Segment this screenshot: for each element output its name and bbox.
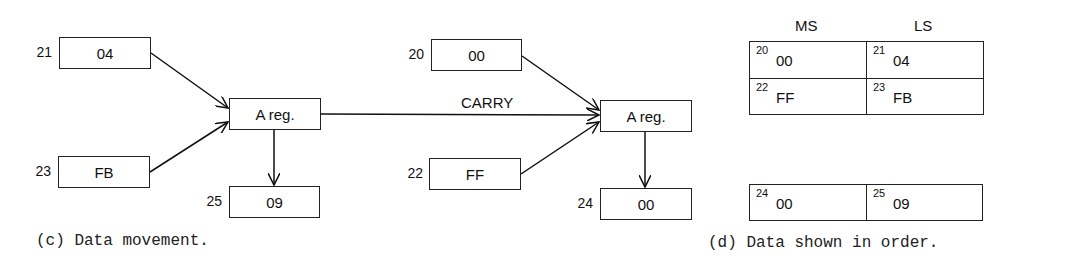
table-cell: 21 04 [866, 41, 984, 79]
cell-value: FF [776, 89, 794, 106]
a-register-box: A reg. [229, 98, 321, 130]
cell-address: 24 [756, 187, 768, 199]
cell-address: 21 [873, 44, 885, 56]
memory-box: FF [429, 158, 521, 190]
memory-box: 09 [229, 186, 320, 218]
table-cell: 22 FF [749, 78, 867, 115]
cell-value: 04 [893, 52, 910, 69]
caption-data-movement: (c) Data movement. [36, 232, 209, 250]
table-cell: 20 00 [749, 41, 867, 79]
cell-value: 00 [776, 52, 793, 69]
cell-address: 25 [873, 187, 885, 199]
cell-address: 20 [756, 44, 768, 56]
address-label: 23 [25, 163, 51, 179]
cell-value: FB [893, 89, 912, 106]
table-cell: 25 09 [866, 184, 983, 221]
address-label: 24 [567, 195, 593, 211]
memory-box: 04 [59, 37, 151, 69]
register-label: A reg. [626, 108, 665, 125]
memory-box: 00 [431, 39, 522, 71]
caption-data-in-order: (d) Data shown in order. [708, 234, 938, 252]
cell-address: 22 [756, 81, 768, 93]
memory-box: FB [58, 156, 150, 188]
memory-value: 09 [266, 194, 283, 211]
memory-value: FB [94, 164, 113, 181]
register-label: A reg. [255, 106, 294, 123]
address-label: 22 [397, 165, 423, 181]
ms-header: MS [795, 17, 818, 34]
memory-box: 00 [600, 188, 692, 220]
ls-header: LS [914, 17, 932, 34]
address-label: 20 [398, 46, 424, 62]
table-cell: 23 FB [866, 78, 984, 115]
cell-value: 00 [776, 195, 793, 212]
memory-value: 04 [97, 45, 114, 62]
a-register-box: A reg. [600, 100, 692, 132]
carry-label: CARRY [461, 94, 513, 111]
address-label: 21 [26, 44, 52, 60]
memory-value: 00 [638, 196, 655, 213]
table-cell: 24 00 [749, 184, 867, 221]
memory-value: 00 [468, 47, 485, 64]
memory-value: FF [466, 166, 484, 183]
cell-value: 09 [893, 195, 910, 212]
address-label: 25 [196, 193, 222, 209]
cell-address: 23 [873, 81, 885, 93]
